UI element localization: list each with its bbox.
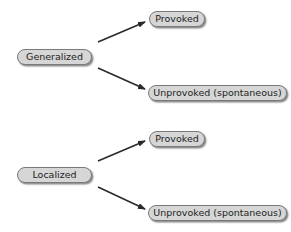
arrows-layer bbox=[0, 0, 291, 232]
node-localized-unprovoked: Unprovoked (spontaneous) bbox=[148, 205, 287, 221]
arrow-generalized-to-unprovoked bbox=[98, 68, 145, 89]
node-generalized: Generalized bbox=[17, 49, 92, 65]
arrow-localized-to-provoked bbox=[98, 141, 145, 161]
node-generalized-provoked: Provoked bbox=[149, 11, 205, 27]
arrow-generalized-to-provoked bbox=[98, 22, 145, 42]
node-generalized-unprovoked: Unprovoked (spontaneous) bbox=[148, 85, 287, 101]
arrow-localized-to-unprovoked bbox=[98, 187, 145, 209]
node-localized: Localized bbox=[17, 167, 92, 183]
node-localized-provoked: Provoked bbox=[149, 131, 205, 147]
